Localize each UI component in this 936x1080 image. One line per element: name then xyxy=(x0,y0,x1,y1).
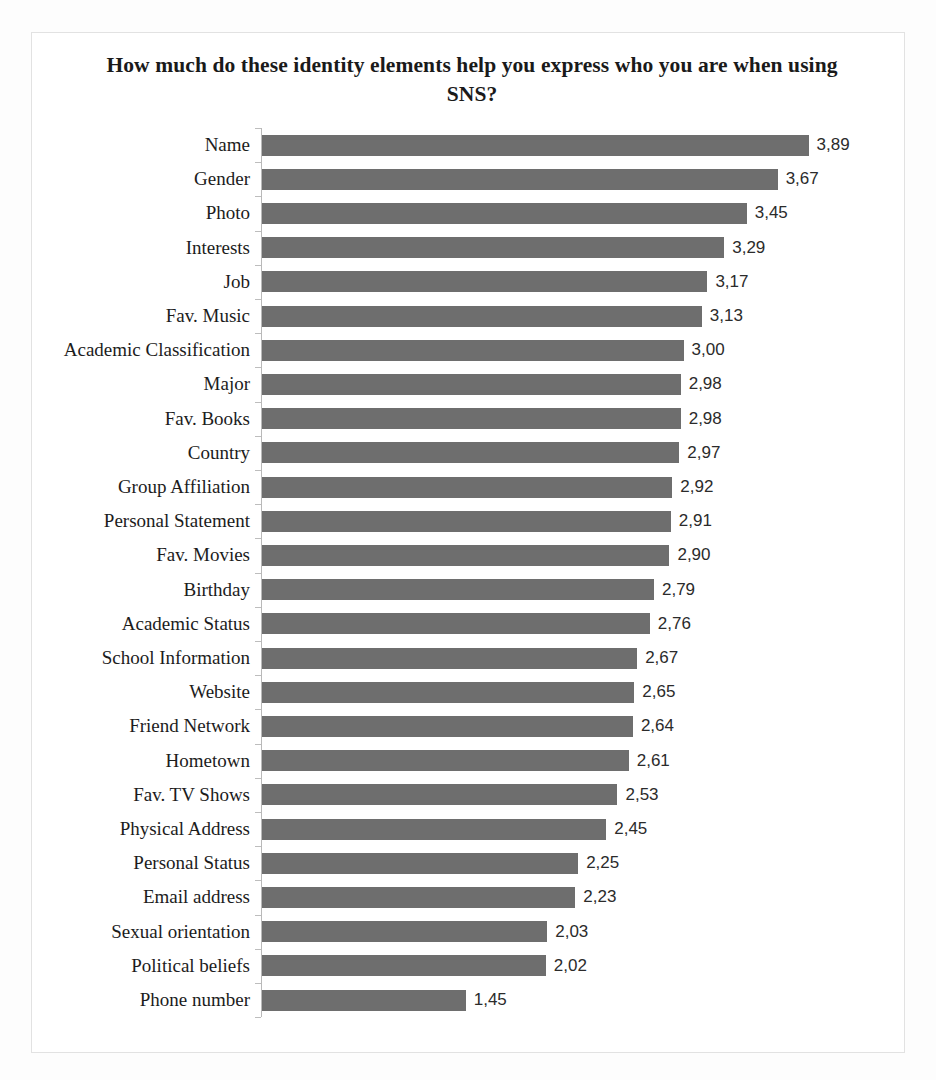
category-label: Fav. Movies xyxy=(156,538,250,572)
bar-value-label: 3,13 xyxy=(710,299,743,333)
bar-value-label: 2,45 xyxy=(614,812,647,846)
bar-row: Fav. Music3,13 xyxy=(32,299,906,333)
bar-row: Gender3,67 xyxy=(32,162,906,196)
bar xyxy=(262,477,672,498)
bar xyxy=(262,784,617,805)
bar xyxy=(262,135,809,156)
category-label: Photo xyxy=(206,196,250,230)
bar xyxy=(262,306,702,327)
category-label: Fav. Music xyxy=(166,299,250,333)
chart-frame: How much do these identity elements help… xyxy=(31,32,905,1053)
bar xyxy=(262,716,633,737)
bar-row: Fav. TV Shows2,53 xyxy=(32,778,906,812)
bar-row: Interests3,29 xyxy=(32,231,906,265)
bar-value-label: 3,00 xyxy=(692,333,725,367)
bar-value-label: 2,98 xyxy=(689,367,722,401)
category-label: Gender xyxy=(194,162,250,196)
category-label: Country xyxy=(188,436,250,470)
bar-row: Fav. Books2,98 xyxy=(32,402,906,436)
bar-row: Major2,98 xyxy=(32,367,906,401)
bar-value-label: 3,17 xyxy=(715,265,748,299)
bar-row: Phone number1,45 xyxy=(32,983,906,1017)
bar-row: Hometown2,61 xyxy=(32,744,906,778)
bar xyxy=(262,819,606,840)
plot-area: Name3,89Gender3,67Photo3,45Interests3,29… xyxy=(32,126,906,1031)
category-label: School Information xyxy=(102,641,250,675)
bar-value-label: 2,98 xyxy=(689,402,722,436)
bar-row: Academic Classification3,00 xyxy=(32,333,906,367)
axis-tick xyxy=(255,1017,261,1018)
bar-row: Name3,89 xyxy=(32,128,906,162)
bar-row: Sexual orientation2,03 xyxy=(32,915,906,949)
category-label: Major xyxy=(204,367,250,401)
category-label: Email address xyxy=(143,880,250,914)
bar xyxy=(262,545,669,566)
bar-row: Physical Address2,45 xyxy=(32,812,906,846)
bar-value-label: 2,97 xyxy=(687,436,720,470)
bar xyxy=(262,237,724,258)
bar-value-label: 2,67 xyxy=(645,641,678,675)
bar xyxy=(262,887,575,908)
bar-row: Country2,97 xyxy=(32,436,906,470)
bar-value-label: 2,90 xyxy=(677,538,710,572)
bar xyxy=(262,340,684,361)
bar-row: Job3,17 xyxy=(32,265,906,299)
bar-row: Personal Status2,25 xyxy=(32,846,906,880)
category-label: Interests xyxy=(186,231,250,265)
bar-value-label: 3,45 xyxy=(755,196,788,230)
bar-row: Fav. Movies2,90 xyxy=(32,538,906,572)
category-label: Physical Address xyxy=(120,812,250,846)
bar-value-label: 2,61 xyxy=(637,744,670,778)
bar-row: Academic Status2,76 xyxy=(32,607,906,641)
bar xyxy=(262,579,654,600)
category-label: Academic Status xyxy=(122,607,250,641)
bar-value-label: 2,76 xyxy=(658,607,691,641)
bar xyxy=(262,990,466,1011)
bar xyxy=(262,648,637,669)
bar-value-label: 2,92 xyxy=(680,470,713,504)
bar-value-label: 1,45 xyxy=(474,983,507,1017)
bar-value-label: 3,29 xyxy=(732,231,765,265)
bar xyxy=(262,203,747,224)
category-label: Personal Statement xyxy=(104,504,250,538)
bar-row: Website2,65 xyxy=(32,675,906,709)
category-label: Fav. TV Shows xyxy=(133,778,250,812)
category-label: Name xyxy=(205,128,250,162)
category-label: Website xyxy=(189,675,250,709)
category-label: Group Affiliation xyxy=(118,470,250,504)
bar-row: Group Affiliation2,92 xyxy=(32,470,906,504)
bar-value-label: 2,25 xyxy=(586,846,619,880)
bar xyxy=(262,374,681,395)
bar xyxy=(262,271,707,292)
bar-row: Friend Network2,64 xyxy=(32,709,906,743)
bar xyxy=(262,750,629,771)
bar xyxy=(262,613,650,634)
category-label: Hometown xyxy=(166,744,250,778)
bar-value-label: 3,67 xyxy=(786,162,819,196)
bar xyxy=(262,442,679,463)
category-label: Sexual orientation xyxy=(111,915,250,949)
bar-value-label: 3,89 xyxy=(817,128,850,162)
bar xyxy=(262,853,578,874)
bar-row: Email address2,23 xyxy=(32,880,906,914)
category-label: Friend Network xyxy=(129,709,250,743)
bar-value-label: 2,79 xyxy=(662,573,695,607)
bar-value-label: 2,03 xyxy=(555,915,588,949)
bar-value-label: 2,02 xyxy=(554,949,587,983)
bar-row: School Information2,67 xyxy=(32,641,906,675)
chart-title: How much do these identity elements help… xyxy=(102,51,842,109)
category-label: Birthday xyxy=(184,573,251,607)
bar xyxy=(262,511,671,532)
category-label: Phone number xyxy=(140,983,250,1017)
category-label: Academic Classification xyxy=(64,333,250,367)
category-label: Job xyxy=(224,265,250,299)
bar xyxy=(262,408,681,429)
category-label: Political beliefs xyxy=(131,949,250,983)
bar xyxy=(262,955,546,976)
bar xyxy=(262,169,778,190)
category-label: Fav. Books xyxy=(165,402,250,436)
category-label: Personal Status xyxy=(133,846,250,880)
bar-value-label: 2,91 xyxy=(679,504,712,538)
bar-row: Political beliefs2,02 xyxy=(32,949,906,983)
bar-row: Personal Statement2,91 xyxy=(32,504,906,538)
